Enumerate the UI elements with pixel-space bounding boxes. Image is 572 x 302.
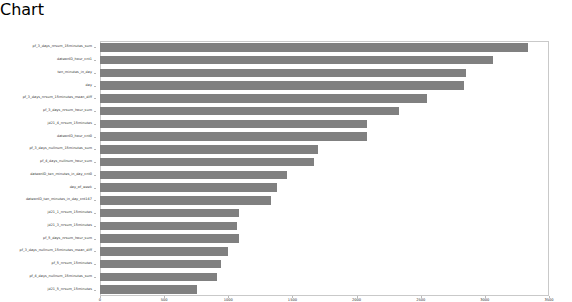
y-axis-tick-mark bbox=[94, 124, 96, 125]
bar-series bbox=[100, 41, 549, 296]
y-axis-tick-mark bbox=[94, 200, 96, 201]
bar bbox=[100, 56, 493, 64]
bar bbox=[100, 145, 318, 153]
y-axis-tick-label: jd21_1_nrsum_15minutes bbox=[47, 211, 92, 214]
y-axis-tick-label: dateonID_ten_minutes_in_day_cnt147 bbox=[26, 198, 92, 201]
bar bbox=[100, 69, 466, 77]
y-axis-tick-label: jd21_5_nrsum_15minutes bbox=[47, 288, 92, 291]
y-axis-tick-mark bbox=[94, 290, 96, 291]
y-axis-tick-label: pf_3_days_nullnum_15minutes_mean_diff bbox=[20, 249, 92, 252]
y-axis-tick-label: ten_minutes_in_day bbox=[57, 71, 92, 74]
y-axis-tick-mark bbox=[94, 98, 96, 99]
y-axis-tick-mark bbox=[94, 251, 96, 252]
y-axis-tick-mark bbox=[94, 264, 96, 265]
y-axis-tick-mark bbox=[94, 239, 96, 240]
y-axis-labels: pf_3_days_nrsum_15minutes_sumdateonID_ho… bbox=[0, 41, 96, 296]
y-axis-tick-label: pf_5_days_nrsum_hour_sum bbox=[43, 237, 92, 240]
y-axis-tick-label: dateonID_hour_cnt0 bbox=[57, 135, 92, 138]
y-axis-tick-mark bbox=[94, 86, 96, 87]
bar bbox=[100, 43, 528, 51]
bar-chart-figure: pf_3_days_nrsum_15minutes_sumdateonID_ho… bbox=[0, 19, 572, 302]
y-axis-tick-mark bbox=[94, 149, 96, 150]
bar bbox=[100, 158, 314, 166]
y-axis-tick-label: jd21_3_nrsum_15minutes bbox=[47, 224, 92, 227]
y-axis-tick-label: day_of_week bbox=[70, 186, 92, 189]
y-axis-tick-mark bbox=[94, 137, 96, 138]
bar bbox=[100, 132, 367, 140]
y-axis-tick-label: pf_3_days_nrsum_15minutes_sum bbox=[33, 45, 92, 48]
y-axis-tick-label: pf_3_days_nullnum_15minutes_sum bbox=[29, 147, 92, 150]
bar bbox=[100, 285, 197, 293]
y-axis-tick-mark bbox=[94, 188, 96, 189]
bar bbox=[100, 81, 464, 89]
bar bbox=[100, 171, 287, 179]
bar bbox=[100, 234, 239, 242]
x-axis: 0500100015002000250030003500 bbox=[100, 296, 549, 302]
y-axis-tick-mark bbox=[94, 175, 96, 176]
y-axis-tick-label: dateonID_ten_minutes_in_day_cnt0 bbox=[30, 173, 92, 176]
bar bbox=[100, 183, 277, 191]
y-axis-tick-mark bbox=[94, 226, 96, 227]
bar bbox=[100, 247, 228, 255]
y-axis-tick-label: pf_3_days_nrsum_15minutes_mean_diff bbox=[23, 96, 92, 99]
bar bbox=[100, 196, 271, 204]
y-axis-tick-mark bbox=[94, 47, 96, 48]
bar bbox=[100, 260, 221, 268]
y-axis-tick-label: pf_4_days_nullnum_15minutes_sum bbox=[29, 275, 92, 278]
y-axis-tick-label: pf_3_days_nrsum_hour_sum bbox=[43, 109, 92, 112]
bar bbox=[100, 120, 367, 128]
y-axis-tick-mark bbox=[94, 73, 96, 74]
y-axis-tick-label: pf_5_nrsum_15minutes bbox=[52, 262, 92, 265]
y-axis-tick-mark bbox=[94, 162, 96, 163]
y-axis-tick-label: pf_4_days_nullnum_hour_sum bbox=[40, 160, 92, 163]
bar bbox=[100, 209, 239, 217]
bar bbox=[100, 222, 237, 230]
y-axis-tick-label: day bbox=[86, 84, 92, 87]
y-axis-tick-mark bbox=[94, 277, 96, 278]
y-axis-tick-mark bbox=[94, 111, 96, 112]
bar bbox=[100, 273, 217, 281]
bar bbox=[100, 107, 399, 115]
y-axis-tick-label: dateonID_hour_cnt1 bbox=[57, 58, 92, 61]
y-axis-tick-label: jd21_4_nrsum_15minutes bbox=[47, 122, 92, 125]
y-axis-tick-mark bbox=[94, 60, 96, 61]
y-axis-tick-mark bbox=[94, 213, 96, 214]
bar bbox=[100, 94, 427, 102]
